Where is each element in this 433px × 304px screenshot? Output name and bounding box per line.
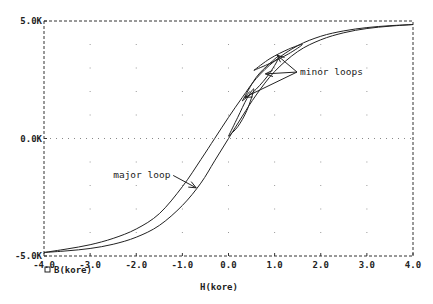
legend-label: B(kore) <box>54 265 92 275</box>
hysteresis-chart: -4.0-3.0-2.0-1.00.01.02.03.04.05.0K0.0K-… <box>0 0 433 304</box>
grid-dot <box>320 209 321 210</box>
grid-dot <box>274 209 275 210</box>
grid-dot <box>182 44 183 45</box>
grid-dot <box>90 44 91 45</box>
grid-dot <box>90 68 91 69</box>
grid-dot <box>228 232 229 233</box>
grid-dot <box>228 209 229 210</box>
grid-dot <box>228 68 229 69</box>
grid-dot <box>136 209 137 210</box>
grid-dot <box>182 115 183 116</box>
grid-dot <box>274 162 275 163</box>
grid-dot <box>320 185 321 186</box>
grid-dot <box>228 44 229 45</box>
grid-dot <box>90 232 91 233</box>
grid-dot <box>366 91 367 92</box>
x-tick-label: 3.0 <box>359 260 375 270</box>
grid-dot <box>274 232 275 233</box>
grid-dot <box>90 209 91 210</box>
annotations: major loopminor loops <box>113 55 363 188</box>
data-series <box>44 25 413 253</box>
y-tick-label: 5.0K <box>20 16 42 26</box>
grid-dot <box>274 91 275 92</box>
x-tick-label: 4.0 <box>405 260 421 270</box>
x-tick-label: 2.0 <box>313 260 329 270</box>
grid-dot <box>228 162 229 163</box>
grid-dot <box>136 68 137 69</box>
grid-dot <box>136 44 137 45</box>
x-tick-label: -4.0 <box>33 260 55 270</box>
grid-dot <box>90 185 91 186</box>
grid-dot <box>320 115 321 116</box>
grid-dot <box>228 115 229 116</box>
y-tick-label: -5.0K <box>15 251 43 261</box>
grid-dot <box>136 162 137 163</box>
grid-dot <box>90 91 91 92</box>
grid-dot <box>136 115 137 116</box>
grid-dot <box>228 91 229 92</box>
grid-dot <box>136 185 137 186</box>
series-line <box>44 25 413 253</box>
x-tick-label: 0.0 <box>220 260 236 270</box>
grid-dot <box>182 162 183 163</box>
grid-dot <box>90 162 91 163</box>
x-axis-title: H(kore) <box>200 282 238 292</box>
grid-dot <box>366 209 367 210</box>
grid-dot <box>182 68 183 69</box>
grid-dot <box>366 185 367 186</box>
grid-dot <box>366 162 367 163</box>
grid-dot <box>274 68 275 69</box>
grid-dot <box>366 115 367 116</box>
grid-dot <box>90 115 91 116</box>
annotation-label: minor loops <box>300 66 363 77</box>
grid-dot <box>136 232 137 233</box>
annotation-label: major loop <box>113 169 170 180</box>
grid-dot <box>182 209 183 210</box>
grid-dot <box>182 232 183 233</box>
x-tick-label: 1.0 <box>266 260 282 270</box>
grid-dot <box>274 44 275 45</box>
grid-dot <box>182 91 183 92</box>
grid-dot <box>320 162 321 163</box>
x-tick-label: -1.0 <box>172 260 194 270</box>
x-tick-label: -2.0 <box>125 260 147 270</box>
grid-dot <box>274 185 275 186</box>
grid-dot <box>274 115 275 116</box>
y-tick-label: 0.0K <box>20 134 42 144</box>
grid-dot <box>366 232 367 233</box>
grid-dot <box>366 44 367 45</box>
axis-ticks: -4.0-3.0-2.0-1.00.01.02.03.04.05.0K0.0K-… <box>15 16 421 270</box>
grid-dot <box>366 68 367 69</box>
grid-dot <box>320 44 321 45</box>
grid-dot <box>320 232 321 233</box>
grid-dot <box>320 91 321 92</box>
grid-dot <box>136 91 137 92</box>
grid-dot <box>228 185 229 186</box>
